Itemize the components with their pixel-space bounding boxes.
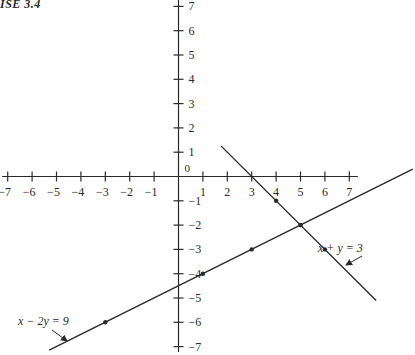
coordinate-plot: −7−6−5−4−3−2−112345677654321−1−2−3−4−5−6… bbox=[0, 0, 415, 355]
label-x-minus-2y-eq-9: x − 2y = 9 bbox=[17, 314, 69, 328]
x-tick-label: 7 bbox=[346, 185, 352, 199]
arrow-icon bbox=[52, 330, 67, 341]
x-tick-label: 3 bbox=[249, 185, 255, 199]
y-tick-label: −3 bbox=[189, 242, 202, 256]
x-tick-label: 2 bbox=[224, 185, 230, 199]
arrow-icon bbox=[346, 256, 362, 265]
y-tick-label: 5 bbox=[189, 48, 195, 62]
x-tick-label: −6 bbox=[23, 185, 36, 199]
data-point bbox=[103, 320, 107, 324]
y-tick-label: −6 bbox=[189, 315, 202, 329]
x-tick-label: −5 bbox=[47, 185, 60, 199]
y-tick-label: −7 bbox=[189, 340, 202, 354]
y-tick-label: 1 bbox=[189, 145, 195, 159]
y-tick-label: −5 bbox=[189, 291, 202, 305]
y-tick-label: −4 bbox=[189, 267, 202, 281]
y-tick-label: 6 bbox=[189, 24, 195, 38]
y-tick-label: 7 bbox=[189, 0, 195, 13]
x-tick-label: −3 bbox=[96, 185, 109, 199]
x-tick-label: 6 bbox=[322, 185, 328, 199]
origin-label: 0 bbox=[185, 162, 191, 174]
y-tick-label: 3 bbox=[189, 97, 195, 111]
series-line-1 bbox=[221, 146, 376, 300]
x-tick-label: 5 bbox=[298, 185, 304, 199]
data-point bbox=[298, 223, 302, 227]
y-tick-label: 2 bbox=[189, 121, 195, 135]
x-tick-label: −4 bbox=[72, 185, 85, 199]
y-tick-label: −1 bbox=[189, 194, 202, 208]
data-point bbox=[201, 272, 205, 276]
x-tick-label: 4 bbox=[273, 185, 279, 199]
y-tick-label: −2 bbox=[189, 218, 202, 232]
data-point bbox=[274, 199, 278, 203]
axes: −7−6−5−4−3−2−112345677654321−1−2−3−4−5−6… bbox=[0, 0, 358, 354]
x-tick-label: −2 bbox=[120, 185, 133, 199]
y-tick-label: 4 bbox=[189, 72, 195, 86]
x-tick-label: −7 bbox=[0, 185, 11, 199]
x-tick-label: −1 bbox=[145, 185, 158, 199]
data-point bbox=[250, 247, 254, 251]
label-x-plus-y-eq-3: x + y = 3 bbox=[317, 241, 363, 255]
